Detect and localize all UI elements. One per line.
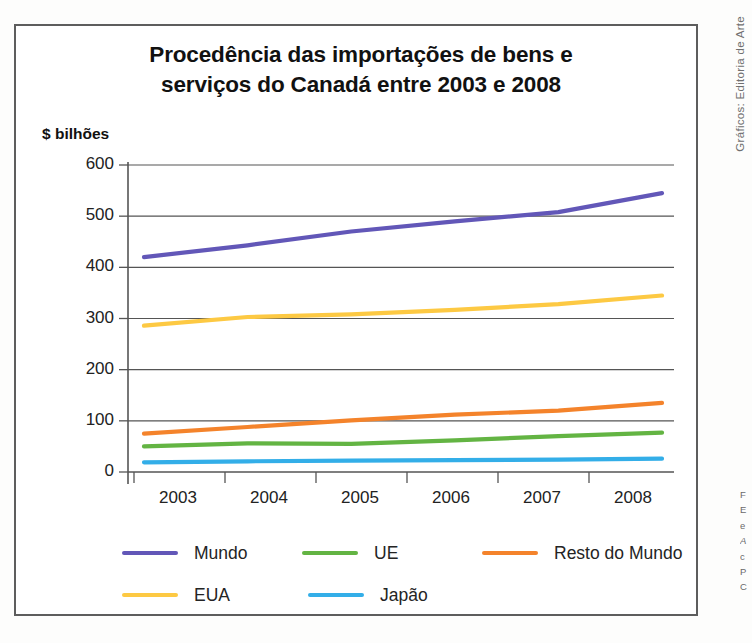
source-credit: Gráficos: Editoria de Arte: [734, 16, 746, 152]
side-caption-line: P: [740, 564, 752, 579]
legend-swatch-icon: [302, 551, 358, 555]
series-line-japão: [144, 459, 662, 463]
legend-item-japão[interactable]: Japão: [308, 585, 494, 606]
legend-swatch-icon: [122, 551, 178, 555]
side-caption-line: E: [740, 502, 752, 517]
y-tick-label-200: 200: [56, 359, 114, 379]
tick-marks: [119, 165, 589, 483]
y-tick-label-500: 500: [56, 205, 114, 225]
series-lines: [144, 193, 662, 462]
series-line-mundo: [144, 193, 662, 257]
legend-label: Japão: [380, 585, 428, 606]
x-tick-label-2006: 2006: [421, 488, 481, 508]
x-tick-label-2003: 2003: [148, 488, 208, 508]
x-tick-label-2004: 2004: [239, 488, 299, 508]
series-line-ue: [144, 433, 662, 447]
legend-label: Resto do Mundo: [554, 543, 682, 564]
x-tick-label-2008: 2008: [603, 488, 663, 508]
legend-item-ue[interactable]: UE: [302, 543, 482, 564]
legend-row: MundoUEResto do Mundo: [122, 532, 682, 574]
legend-label: UE: [374, 543, 398, 564]
side-caption-line: A: [740, 533, 752, 548]
series-line-eua: [144, 296, 662, 326]
legend-row: EUAJapão: [122, 574, 682, 616]
x-tick-label-2005: 2005: [330, 488, 390, 508]
page-background: Procedência das importações de bens e se…: [0, 0, 752, 643]
side-caption-line: e: [740, 518, 752, 533]
legend-label: Mundo: [194, 543, 248, 564]
side-caption-line: C: [740, 579, 752, 594]
y-tick-label-400: 400: [56, 256, 114, 276]
side-caption-line: F: [740, 487, 752, 502]
legend-label: EUA: [194, 585, 230, 606]
chart-legend: MundoUEResto do MundoEUAJapão: [122, 532, 682, 616]
y-tick-label-100: 100: [56, 410, 114, 430]
y-tick-label-300: 300: [56, 308, 114, 328]
series-line-resto-do-mundo: [144, 403, 662, 434]
chart-svg: [16, 26, 700, 618]
x-tick-label-2007: 2007: [512, 488, 572, 508]
legend-swatch-icon: [308, 593, 364, 597]
figure-container: Procedência das importações de bens e se…: [14, 24, 698, 616]
legend-item-mundo[interactable]: Mundo: [122, 543, 302, 564]
legend-item-eua[interactable]: EUA: [122, 585, 308, 606]
legend-item-resto-do-mundo[interactable]: Resto do Mundo: [482, 543, 682, 564]
legend-swatch-icon: [482, 551, 538, 555]
side-caption: FEeAcPC: [740, 487, 752, 595]
side-caption-line: c: [740, 549, 752, 564]
legend-swatch-icon: [122, 593, 178, 597]
plot-area: 6005004003002001000 20032004200520062007…: [16, 26, 700, 618]
y-tick-label-0: 0: [56, 461, 114, 481]
y-tick-label-600: 600: [56, 154, 114, 174]
